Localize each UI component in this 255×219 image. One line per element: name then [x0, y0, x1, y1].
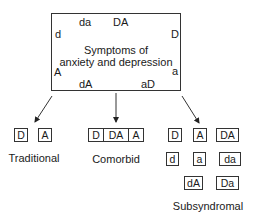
sub-box-dA: dA: [184, 176, 203, 190]
sub-box-da: da: [219, 152, 241, 166]
traditional-box-A: A: [38, 128, 52, 142]
sub-box-DA: DA: [216, 128, 239, 142]
sub-box-Da: Da: [216, 176, 239, 190]
sub-box-d: d: [166, 152, 179, 166]
sub-box-a: a: [193, 152, 206, 166]
arrow-to-traditional: [35, 96, 52, 122]
sub-box-A: A: [193, 128, 207, 142]
sub-box-D: D: [168, 128, 182, 142]
caption-traditional: Traditional: [6, 152, 62, 164]
comorbid-seg-A: A: [129, 129, 143, 141]
caption-subsyndromal: Subsyndromal: [172, 200, 244, 212]
comorbid-seg-DA: DA: [104, 129, 128, 141]
traditional-box-D: D: [14, 128, 28, 142]
caption-comorbid: Comorbid: [86, 153, 146, 165]
comorbid-box: D DA A: [88, 128, 144, 142]
arrow-to-subsyndromal: [182, 96, 199, 123]
comorbid-seg-D: D: [89, 129, 103, 141]
